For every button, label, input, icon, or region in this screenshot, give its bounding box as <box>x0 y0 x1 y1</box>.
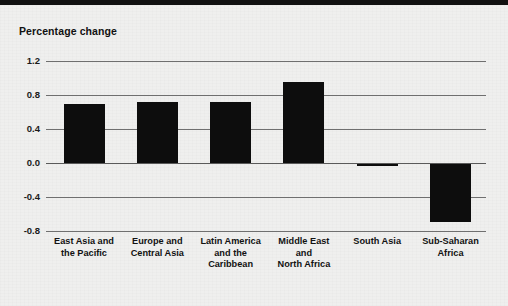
bar[interactable] <box>137 102 178 163</box>
y-axis-tick-label: 0.0 <box>2 157 40 168</box>
bar[interactable] <box>357 164 398 166</box>
chart-page: Percentage change 1.20.80.40.0-0.4-0.8Ea… <box>0 0 508 306</box>
y-axis-tick-label: -0.8 <box>2 225 40 236</box>
gridline--0.8 <box>46 231 486 232</box>
category-label-line: and <box>256 248 352 260</box>
gridline-0.4 <box>46 129 486 130</box>
y-axis-tick-label: 1.2 <box>2 55 40 66</box>
bar[interactable] <box>430 164 471 222</box>
bar[interactable] <box>64 104 105 164</box>
y-axis-tick-label: 0.4 <box>2 123 40 134</box>
bar[interactable] <box>283 82 324 163</box>
bar-chart-plot-area: 1.20.80.40.0-0.4-0.8East Asia andthe Pac… <box>0 0 508 306</box>
category-label-line: North Africa <box>256 259 352 271</box>
gridline--0.4 <box>46 197 486 198</box>
bar[interactable] <box>210 102 251 163</box>
x-axis-category-label: Sub-SaharanAfrica <box>403 236 499 259</box>
category-label-line: Africa <box>403 248 499 260</box>
y-axis-tick-label: 0.8 <box>2 89 40 100</box>
gridline-0.0 <box>46 163 486 164</box>
y-axis-tick-label: -0.4 <box>2 191 40 202</box>
gridline-1.2 <box>46 61 486 62</box>
gridline-0.8 <box>46 95 486 96</box>
category-label-line: Sub-Saharan <box>403 236 499 248</box>
